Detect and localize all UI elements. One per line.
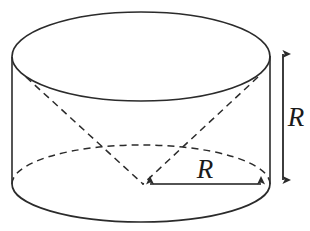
geometry-figure: R R bbox=[0, 0, 310, 231]
cone-apex-point bbox=[142, 183, 144, 185]
cylinder-bottom-front-arc bbox=[12, 184, 270, 222]
cylinder-top-ellipse bbox=[12, 12, 270, 101]
cylinder-bottom-back-arc bbox=[12, 145, 270, 184]
height-dimension: R bbox=[283, 54, 305, 180]
cylinder-body bbox=[12, 12, 270, 222]
cylinder-cone-diagram: R R bbox=[0, 0, 310, 231]
radius-dimension: R bbox=[150, 154, 261, 184]
cone-slant-left bbox=[26, 77, 143, 184]
inscribed-cone bbox=[26, 77, 258, 185]
radius-label: R bbox=[196, 154, 214, 184]
height-label: R bbox=[287, 102, 305, 132]
